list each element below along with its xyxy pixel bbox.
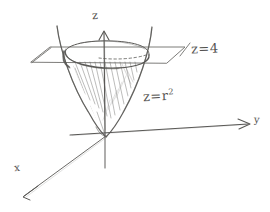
sketch-canvas: z y x z=4 z=r2: [0, 0, 270, 212]
surface-equation-exponent: 2: [168, 87, 174, 96]
cutting-plane-outline: [31, 47, 185, 63]
plane-equation-equals: =: [198, 41, 210, 56]
z-axis-label: z: [92, 9, 99, 22]
plane-equation-value: 4: [210, 41, 219, 56]
surface-equation-label: z=r2: [143, 87, 175, 104]
y-axis-label: y: [254, 114, 261, 125]
x-axis: [24, 136, 107, 197]
plane-equation-label: z=4: [191, 41, 219, 57]
z-axis: [104, 32, 105, 168]
x-axis-label: x: [13, 162, 20, 174]
surface-equation-equals: =: [150, 88, 162, 104]
ellipse-hidden-arc: [99, 55, 146, 59]
sketch-drawing: [0, 0, 270, 212]
plane-label-leader: [180, 43, 190, 56]
x-axis-arrowhead: [23, 186, 38, 200]
